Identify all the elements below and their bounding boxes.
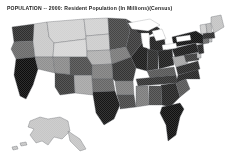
state-AR[interactable]: [115, 81, 134, 95]
state-CA[interactable]: [14, 57, 38, 99]
state-IN[interactable]: [147, 49, 158, 71]
state-OR[interactable]: [11, 41, 35, 59]
state-NV[interactable]: [35, 57, 55, 73]
state-AZ[interactable]: [55, 73, 75, 95]
state-ND[interactable]: [84, 18, 109, 36]
state-OK[interactable]: [92, 79, 115, 92]
chart-title: POPULATION -- 2000: Resident Population …: [7, 5, 172, 12]
state-NH[interactable]: [206, 23, 212, 33]
choropleth-map: [0, 13, 236, 167]
state-VT[interactable]: [200, 24, 207, 34]
state-SD[interactable]: [86, 34, 110, 51]
state-MS[interactable]: [136, 86, 149, 107]
state-AL[interactable]: [149, 86, 162, 105]
us-map-svg: [0, 13, 236, 167]
state-NM[interactable]: [74, 75, 93, 95]
state-TX[interactable]: [93, 91, 120, 125]
state-AK-aleutians-2: [12, 146, 18, 150]
state-NE[interactable]: [87, 50, 112, 65]
state-KS[interactable]: [92, 64, 113, 79]
state-AK[interactable]: [28, 117, 70, 145]
state-LA[interactable]: [117, 95, 136, 109]
state-MT[interactable]: [47, 19, 86, 43]
state-AK-panhandle: [68, 131, 86, 151]
figure-canvas: POPULATION -- 2000: Resident Population …: [0, 0, 236, 167]
state-FL[interactable]: [160, 103, 184, 141]
state-ME[interactable]: [211, 15, 224, 33]
state-OH[interactable]: [158, 49, 174, 69]
state-AK-aleutians-1: [20, 142, 27, 146]
states-layer: [11, 15, 224, 151]
